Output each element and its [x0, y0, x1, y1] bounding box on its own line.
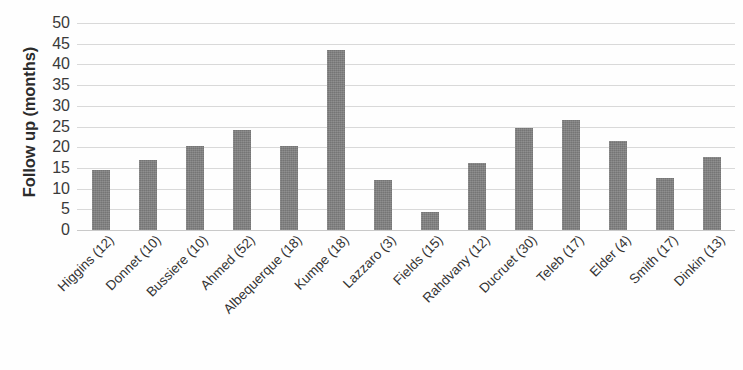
plot-area — [77, 23, 735, 230]
bar — [703, 157, 721, 230]
bar — [421, 212, 439, 230]
bar — [280, 146, 298, 230]
y-axis-tick-labels: 50454035302520151050 — [30, 13, 70, 232]
y-axis-tick-label: 25 — [30, 119, 70, 135]
bar — [374, 180, 392, 230]
y-axis-tick-label: 10 — [30, 181, 70, 197]
axis-baseline — [77, 230, 735, 231]
bar — [515, 128, 533, 230]
bar — [233, 130, 251, 230]
y-axis-tick-label: 45 — [30, 36, 70, 52]
bar-chart-figure: Follow up (months) 50454035302520151050 … — [0, 0, 743, 370]
y-axis-tick-label: 15 — [30, 160, 70, 176]
bar — [468, 163, 486, 230]
y-axis-tick-label: 35 — [30, 77, 70, 93]
bar — [92, 170, 110, 230]
x-axis-tick-labels: Higgins (12)Donnet (10)Bussiere (10)Ahme… — [0, 233, 743, 370]
bar — [186, 146, 204, 230]
bar — [139, 160, 157, 230]
y-axis-tick-label: 30 — [30, 98, 70, 114]
bar — [327, 50, 345, 230]
bar — [656, 178, 674, 230]
bar — [609, 141, 627, 230]
bars-layer — [77, 23, 735, 230]
y-axis-tick-label: 20 — [30, 139, 70, 155]
y-axis-tick-label: 40 — [30, 56, 70, 72]
y-axis-tick-label: 50 — [30, 15, 70, 31]
bar — [562, 120, 580, 230]
y-axis-tick-label: 5 — [30, 201, 70, 217]
